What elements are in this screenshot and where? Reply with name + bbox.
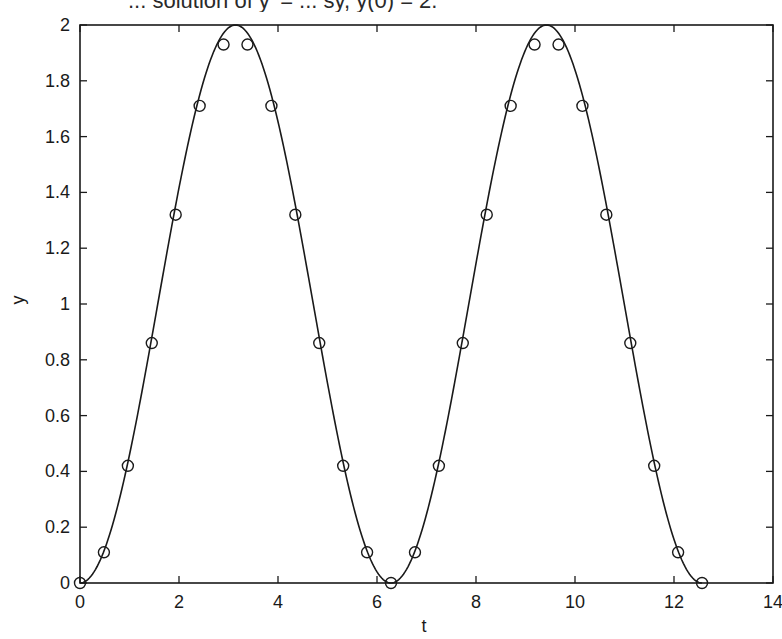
- y-tick-label: 2: [60, 15, 70, 35]
- x-tick-label: 8: [471, 592, 481, 612]
- solution-line: [80, 25, 702, 583]
- x-tick-label: 10: [565, 592, 585, 612]
- approximation-markers: [75, 39, 708, 588]
- data-point-marker: [577, 100, 588, 111]
- data-point-marker: [553, 39, 564, 50]
- x-tick-label: 12: [664, 592, 684, 612]
- exact-solution-curve: [80, 25, 702, 583]
- x-tick-label: 6: [372, 592, 382, 612]
- y-tick-label: 1.6: [45, 127, 70, 147]
- data-point-marker: [170, 209, 181, 220]
- y-tick-label: 0.6: [45, 406, 70, 426]
- x-tick-label: 4: [273, 592, 283, 612]
- y-axis-label: y: [8, 296, 28, 305]
- y-tick-label: 1.4: [45, 182, 70, 202]
- line-chart: 02468101214 00.20.40.60.811.21.41.61.82 …: [0, 0, 782, 639]
- y-tick-label: 1.8: [45, 71, 70, 91]
- data-point-marker: [601, 209, 612, 220]
- x-tick-label: 14: [763, 592, 782, 612]
- x-tick-label: 0: [75, 592, 85, 612]
- data-point-marker: [266, 100, 277, 111]
- data-point-marker: [290, 209, 301, 220]
- x-tick-label: 2: [174, 592, 184, 612]
- data-point-marker: [481, 209, 492, 220]
- x-axis-ticks: 02468101214: [75, 25, 782, 612]
- data-point-marker: [218, 39, 229, 50]
- y-tick-label: 0: [60, 573, 70, 593]
- y-tick-label: 1: [60, 294, 70, 314]
- data-point-marker: [505, 100, 516, 111]
- data-point-marker: [242, 39, 253, 50]
- data-point-marker: [194, 100, 205, 111]
- plot-border: [80, 25, 773, 583]
- data-point-marker: [529, 39, 540, 50]
- axes-frame: [80, 25, 773, 583]
- y-tick-label: 0.8: [45, 350, 70, 370]
- y-tick-label: 0.4: [45, 461, 70, 481]
- x-axis-label: t: [421, 616, 426, 636]
- y-tick-label: 1.2: [45, 238, 70, 258]
- y-tick-label: 0.2: [45, 517, 70, 537]
